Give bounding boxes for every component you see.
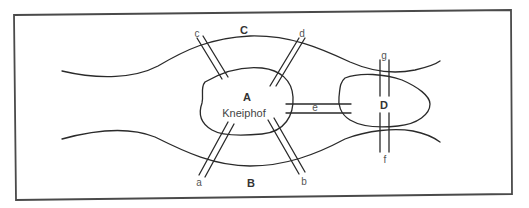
label-c-landmass: C <box>240 24 248 36</box>
konigsberg-diagram: C A Kneiphof B D c d a b e g f <box>0 0 529 208</box>
label-d-landmass: D <box>380 99 388 111</box>
label-kneiphof: Kneiphof <box>222 107 266 119</box>
bridge-d <box>270 38 305 86</box>
label-bridge-b: b <box>301 176 307 187</box>
label-bridge-f: f <box>384 154 387 165</box>
label-b-landmass: B <box>247 177 255 189</box>
bridge-g <box>380 60 389 96</box>
bridge-b <box>268 118 305 174</box>
label-bridge-a: a <box>196 177 202 188</box>
bridge-a <box>199 122 234 177</box>
bridge-f <box>380 113 389 152</box>
label-bridge-e: e <box>312 102 318 113</box>
label-bridge-c: c <box>195 28 200 39</box>
label-bridge-g: g <box>381 50 387 61</box>
label-bridge-d: d <box>299 28 305 39</box>
label-a-landmass: A <box>243 91 251 103</box>
diagram-frame <box>14 10 512 200</box>
